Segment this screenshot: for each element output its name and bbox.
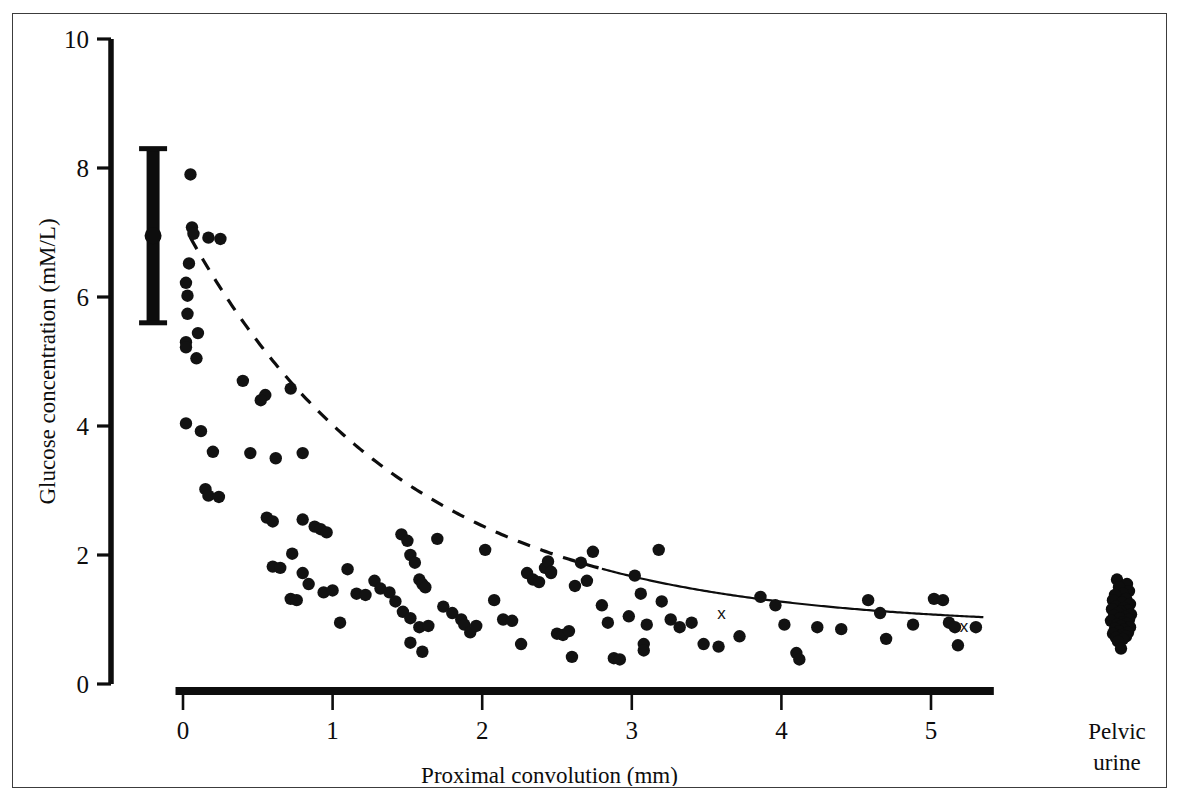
y-axis-title: Glucose concentration (mM/L) — [35, 218, 60, 504]
data-point — [907, 618, 919, 630]
x-axis-tick-label: 2 — [476, 717, 489, 744]
data-point — [515, 638, 527, 650]
y-axis-tick-label: 2 — [77, 542, 90, 569]
plasma-error-bar — [139, 149, 167, 323]
data-point — [296, 447, 308, 459]
recollection-marker: x — [717, 604, 726, 623]
data-point — [656, 595, 668, 607]
data-point — [635, 588, 647, 600]
data-point — [207, 446, 219, 458]
data-point — [545, 566, 557, 578]
data-point — [270, 452, 282, 464]
data-point — [937, 594, 949, 606]
figure-page: 0246810Glucose concentration (mM/L)01234… — [0, 0, 1180, 804]
data-point — [296, 567, 308, 579]
data-point — [237, 375, 249, 387]
data-point — [359, 589, 371, 601]
x-axis-tick-label: 1 — [326, 717, 339, 744]
scatter-points — [180, 168, 982, 665]
data-point — [195, 425, 207, 437]
data-point — [286, 548, 298, 560]
data-point — [401, 535, 413, 547]
y-axis-tick-label: 6 — [77, 284, 90, 311]
fit-curve-solid — [602, 569, 983, 617]
data-point — [778, 618, 790, 630]
data-point — [422, 620, 434, 632]
data-point — [431, 533, 443, 545]
y-axis: 0246810 — [64, 26, 111, 698]
data-point — [697, 638, 709, 650]
data-point — [202, 489, 214, 501]
data-point — [811, 621, 823, 633]
data-point — [623, 610, 635, 622]
data-point — [970, 621, 982, 633]
data-point — [214, 233, 226, 245]
data-point — [488, 594, 500, 606]
data-point — [769, 599, 781, 611]
data-point — [596, 599, 608, 611]
data-point — [255, 394, 267, 406]
x-axis: 012345 — [176, 691, 994, 744]
data-point — [320, 526, 332, 538]
data-point — [302, 578, 314, 590]
fit-curve-dashed — [190, 238, 601, 569]
data-point — [416, 646, 428, 658]
data-point — [712, 640, 724, 652]
data-point — [653, 544, 665, 556]
data-point — [754, 591, 766, 603]
data-point — [183, 257, 195, 269]
data-point — [673, 621, 685, 633]
data-point — [389, 595, 401, 607]
data-point — [190, 352, 202, 364]
pelvic-urine-group: Pelvicurine — [1088, 573, 1146, 775]
data-point — [575, 557, 587, 569]
data-point — [202, 231, 214, 243]
data-point — [184, 168, 196, 180]
data-point — [267, 515, 279, 527]
y-axis-tick-label: 4 — [77, 413, 90, 440]
data-point — [614, 653, 626, 665]
data-point — [409, 557, 421, 569]
data-point — [629, 569, 641, 581]
recollection-marker: x — [960, 617, 969, 636]
data-point — [874, 607, 886, 619]
pelvic-urine-label-line1: Pelvic — [1088, 719, 1146, 744]
data-point — [506, 615, 518, 627]
data-point — [470, 620, 482, 632]
pelvic-urine-point — [1115, 642, 1127, 654]
figure-frame: 0246810Glucose concentration (mM/L)01234… — [12, 13, 1167, 788]
data-point — [563, 625, 575, 637]
data-point — [341, 563, 353, 575]
data-point — [285, 382, 297, 394]
scatter-plot-svg: 0246810Glucose concentration (mM/L)01234… — [13, 14, 1165, 786]
data-point — [602, 617, 614, 629]
x-markers: xxx — [556, 604, 969, 642]
data-point — [952, 639, 964, 651]
data-point — [180, 417, 192, 429]
recollection-marker: x — [556, 623, 565, 642]
data-point — [566, 651, 578, 663]
x-axis-tick-label: 0 — [177, 717, 190, 744]
y-axis-tick-label: 8 — [77, 155, 90, 182]
data-point — [291, 594, 303, 606]
data-point — [587, 546, 599, 558]
data-point — [213, 491, 225, 503]
data-point — [404, 637, 416, 649]
data-point — [862, 594, 874, 606]
data-point — [793, 653, 805, 665]
data-point — [404, 612, 416, 624]
data-point — [326, 584, 338, 596]
data-point — [638, 644, 650, 656]
data-point — [180, 277, 192, 289]
error-bar-mean-marker — [145, 227, 162, 244]
pelvic-urine-label-line2: urine — [1093, 750, 1140, 775]
x-axis-tick-label: 4 — [775, 717, 788, 744]
data-point — [533, 576, 545, 588]
x-axis-tick-label: 5 — [925, 717, 938, 744]
x-axis-tick-label: 3 — [626, 717, 639, 744]
data-point — [180, 341, 192, 353]
data-point — [192, 327, 204, 339]
y-axis-tick-label: 0 — [77, 671, 90, 698]
data-point — [274, 562, 286, 574]
data-point — [296, 513, 308, 525]
